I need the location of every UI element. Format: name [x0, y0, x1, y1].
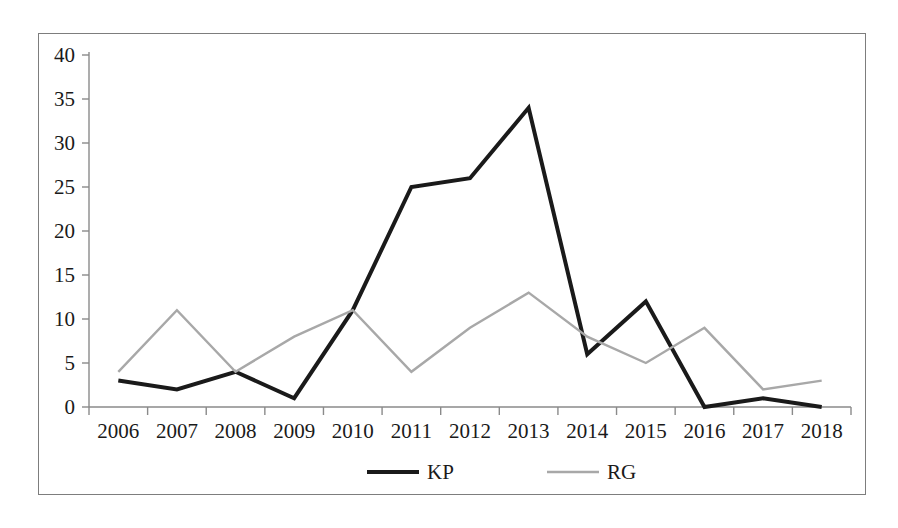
legend-label-kp: KP [427, 460, 454, 484]
x-axis-tick-label: 2014 [566, 419, 609, 443]
y-axis-tick-label: 20 [54, 219, 75, 243]
legend-item-kp: KP [367, 460, 454, 484]
x-axis-tick-label: 2012 [449, 419, 491, 443]
x-axis-tick-label: 2016 [683, 419, 725, 443]
line-chart: 0510152025303540200620072008200920102011… [39, 34, 867, 496]
legend-label-rg: RG [607, 460, 636, 484]
x-axis-tick-label: 2007 [156, 419, 198, 443]
x-axis-tick-label: 2006 [97, 419, 139, 443]
chart-plot-frame: 0510152025303540200620072008200920102011… [38, 33, 866, 495]
x-axis-tick-label: 2017 [742, 419, 784, 443]
legend-item-rg: RG [547, 460, 636, 484]
y-axis-tick-label: 15 [54, 263, 75, 287]
x-axis-tick-label: 2013 [508, 419, 550, 443]
y-axis-tick-label: 40 [54, 43, 75, 67]
x-axis-tick-label: 2011 [391, 419, 432, 443]
x-axis-tick-label: 2010 [332, 419, 374, 443]
y-axis-tick-label: 30 [54, 131, 75, 155]
x-axis-tick-label: 2008 [215, 419, 257, 443]
x-axis-tick-label: 2015 [625, 419, 667, 443]
y-axis-tick-label: 5 [65, 351, 76, 375]
chart-figure: 0510152025303540200620072008200920102011… [0, 0, 898, 528]
y-axis-tick-label: 25 [54, 175, 75, 199]
x-axis-tick-label: 2009 [273, 419, 315, 443]
y-axis-tick-label: 10 [54, 307, 75, 331]
y-axis-tick-label: 35 [54, 87, 75, 111]
y-axis-tick-label: 0 [65, 395, 76, 419]
x-axis-tick-label: 2018 [801, 419, 843, 443]
series-line-kp [118, 108, 821, 407]
